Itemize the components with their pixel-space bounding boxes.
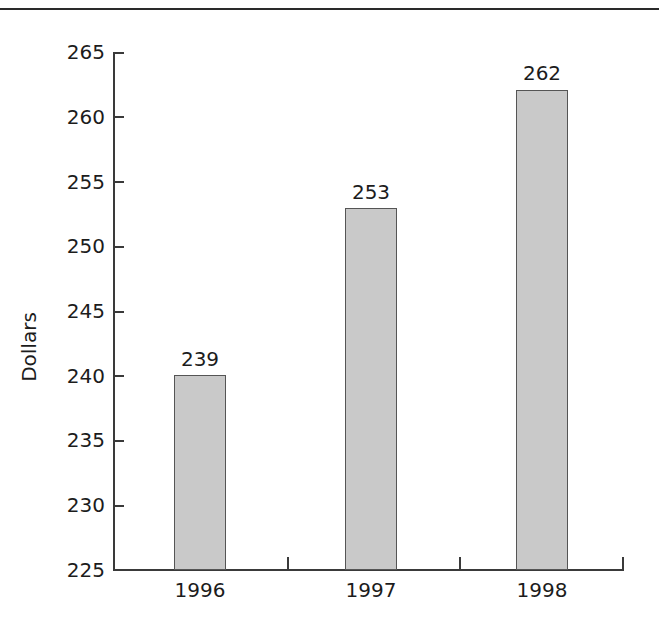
- y-axis-tick: [113, 505, 124, 507]
- y-axis-tick-label: 230: [55, 495, 105, 515]
- y-axis-tick-label: 235: [55, 430, 105, 450]
- y-axis-tick: [113, 181, 124, 183]
- x-axis-tick: [287, 557, 289, 570]
- y-axis-tick-label: 240: [55, 366, 105, 386]
- x-axis-tick: [622, 557, 624, 570]
- y-axis-tick-label: 250: [55, 236, 105, 256]
- bar-value-label-1996: 239: [140, 348, 260, 370]
- y-axis-tick-label: 225: [55, 560, 105, 580]
- bar-value-label-1998: 262: [482, 62, 602, 84]
- y-axis-tick-label: 245: [55, 301, 105, 321]
- y-axis-tick-label: 260: [55, 107, 105, 127]
- bar-1996[interactable]: [174, 375, 226, 570]
- y-axis-tick: [113, 375, 124, 377]
- bar-value-label-1997: 253: [311, 181, 431, 203]
- x-axis-category-label-1996: 1996: [140, 578, 260, 602]
- y-axis-tick: [113, 440, 124, 442]
- y-axis-tick-label: 265: [55, 42, 105, 62]
- y-axis-tick: [113, 52, 124, 54]
- x-axis-category-label-1998: 1998: [482, 578, 602, 602]
- bar-chart-figure: 265 260 255 250 245 240 235 230 225 Doll…: [0, 0, 659, 629]
- bar-1997[interactable]: [345, 208, 397, 570]
- y-axis-title: Dollars: [18, 292, 40, 402]
- x-axis-tick: [459, 557, 461, 570]
- y-axis-tick: [113, 116, 124, 118]
- top-divider-rule: [0, 8, 659, 10]
- y-axis-tick-label: 255: [55, 172, 105, 192]
- x-axis-category-label-1997: 1997: [311, 578, 431, 602]
- y-axis-tick: [113, 246, 124, 248]
- y-axis-tick: [113, 311, 124, 313]
- bar-1998[interactable]: [516, 90, 568, 570]
- y-axis-tick: [113, 569, 124, 571]
